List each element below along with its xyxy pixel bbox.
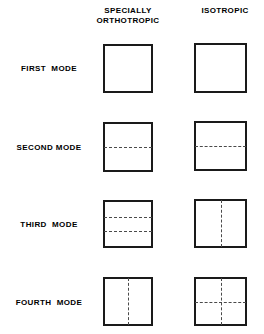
nodal-line-horizontal	[195, 302, 246, 303]
nodal-line-horizontal	[195, 146, 246, 147]
plate-fourth-mode-isotropic	[194, 277, 247, 326]
nodal-line-vertical	[128, 278, 129, 325]
row-label-second-mode: SECOND MODE	[0, 143, 98, 152]
column-header-line-1: SPECIALLY	[84, 6, 172, 16]
row-label-first-mode: FIRST MODE	[0, 64, 98, 73]
column-header-line-2: ORTHOTROPIC	[84, 16, 172, 26]
plate-second-mode-specially-orthotropic	[103, 122, 153, 172]
nodal-line-horizontal	[104, 147, 152, 148]
plate-first-mode-isotropic	[194, 43, 247, 93]
plate-third-mode-isotropic	[194, 199, 247, 248]
mode-shape-figure: SPECIALLY ORTHOTROPIC ISOTROPIC FIRST MO…	[0, 0, 264, 334]
column-header-isotropic: ISOTROPIC	[194, 6, 256, 16]
plate-first-mode-specially-orthotropic	[103, 44, 153, 93]
nodal-line-horizontal	[104, 217, 152, 218]
nodal-line-vertical	[221, 200, 222, 247]
row-label-third-mode: THIRD MODE	[0, 220, 98, 229]
nodal-line-horizontal	[104, 231, 152, 232]
column-header-line-1: ISOTROPIC	[194, 6, 256, 16]
plate-third-mode-specially-orthotropic	[103, 200, 153, 248]
nodal-line-vertical	[221, 278, 222, 325]
row-label-fourth-mode: FOURTH MODE	[0, 298, 98, 307]
plate-second-mode-isotropic	[194, 121, 247, 171]
plate-fourth-mode-specially-orthotropic	[103, 277, 153, 326]
column-header-specially-orthotropic: SPECIALLY ORTHOTROPIC	[84, 6, 172, 25]
